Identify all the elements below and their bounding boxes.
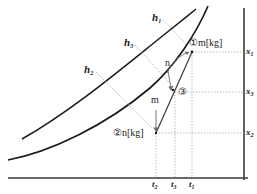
point-2-label: ②n[kg] — [113, 128, 144, 138]
point-1-marker — [191, 51, 194, 54]
y-tick-label-x1: x1 — [246, 47, 254, 56]
diagram-canvas: h1 h3 h2 ①m[kg] ②n[kg] ③ n m t2 t3 t1 x1… — [0, 0, 257, 194]
arrow-n-shaft — [168, 71, 171, 88]
x-tick-label-t1: t1 — [189, 180, 195, 189]
x-tick-label-t3: t3 — [171, 180, 177, 189]
y-tick-label-x3: x3 — [246, 87, 254, 96]
arrow-curve-to-point1 — [167, 52, 189, 73]
point-3-label: ③ — [178, 87, 187, 97]
x-tick-label-t2: t2 — [152, 180, 158, 189]
point-1-label: ①m[kg] — [189, 38, 222, 48]
curve-label-h1: h1 — [152, 12, 161, 23]
arrow-n-label: n — [165, 58, 170, 68]
point-3-marker — [172, 89, 174, 91]
curve-label-h3: h3 — [124, 37, 133, 48]
y-tick-label-x2: x2 — [246, 128, 254, 137]
upper-curve — [22, 9, 196, 139]
arrow-m-label: m — [151, 95, 159, 105]
diagram-svg — [0, 0, 257, 194]
point-2-marker — [155, 132, 157, 134]
guide-h2 — [96, 72, 152, 128]
curve-label-h2: h2 — [84, 64, 93, 75]
